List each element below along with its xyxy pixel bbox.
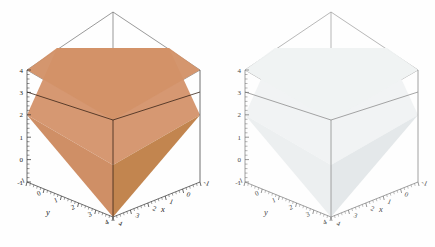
z-tick-label-0: 0: [20, 156, 24, 164]
y-tick-label-3: 3: [305, 210, 312, 219]
x-tick-label-3: 3: [352, 211, 359, 220]
y-tick-label-1: 1: [53, 196, 60, 205]
y-tick-label-2: 2: [70, 203, 77, 212]
right-plot-svg: 4 3 2 1 0 -1: [218, 0, 435, 247]
x-tick-label-1: 1: [386, 197, 393, 206]
z-tick-label-2: 2: [238, 111, 242, 119]
y-tick-label-4: 4: [104, 218, 111, 227]
x-tick-label-neg1: -1: [202, 178, 211, 188]
y-tick-label-0: 0: [254, 189, 261, 198]
z-tick-label-4: 4: [238, 67, 242, 75]
z-tick-label-3: 3: [238, 89, 242, 97]
y-tick-label-0: 0: [36, 189, 43, 198]
x-axis-label: x: [378, 204, 383, 214]
x-axis-label: x: [160, 204, 165, 214]
x-tick-label-neg1: -1: [420, 178, 429, 188]
y-axis-label: y: [263, 207, 268, 217]
y-tick-label-2: 2: [288, 203, 295, 212]
z-tick-label-1: 1: [238, 134, 242, 142]
x-tick-label-4: 4: [335, 219, 342, 228]
y-axis-label: y: [45, 207, 50, 217]
x-tick-label-2: 2: [369, 204, 376, 213]
figure-canvas: 4 3 2 1 0 -1: [0, 0, 435, 247]
y-tick-label-4: 4: [322, 218, 329, 227]
z-tick-label-1: 1: [20, 134, 24, 142]
x-tick-label-0: 0: [403, 190, 410, 199]
right-plot-panel: 4 3 2 1 0 -1: [218, 0, 435, 247]
z-axis-ticks: [245, 70, 249, 182]
x-tick-label-2: 2: [151, 204, 158, 213]
x-tick-label-1: 1: [168, 197, 175, 206]
left-plot-svg: 4 3 2 1 0 -1: [0, 0, 217, 247]
y-tick-label-1: 1: [271, 196, 278, 205]
left-plot-panel: 4 3 2 1 0 -1: [0, 0, 217, 247]
z-tick-label-0: 0: [238, 156, 242, 164]
z-tick-label-2: 2: [20, 111, 24, 119]
x-tick-label-0: 0: [185, 190, 192, 199]
x-tick-label-4: 4: [117, 219, 124, 228]
x-tick-label-3: 3: [134, 211, 141, 220]
z-tick-label-3: 3: [20, 89, 24, 97]
z-axis-ticks: [27, 70, 31, 182]
y-tick-label-3: 3: [87, 210, 94, 219]
z-tick-label-4: 4: [20, 67, 24, 75]
